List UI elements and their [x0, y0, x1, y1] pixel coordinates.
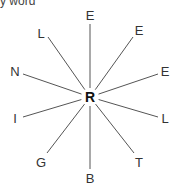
outer-letter: E: [86, 9, 95, 22]
outer-letter: E: [161, 65, 170, 78]
spoke-line: [99, 74, 158, 94]
outer-letter: B: [86, 172, 95, 185]
outer-letter: G: [36, 156, 46, 169]
outer-letter: L: [161, 112, 168, 125]
outer-letter: L: [37, 27, 44, 40]
outer-letter: N: [10, 65, 19, 78]
outer-letter: I: [13, 112, 17, 125]
spoke-line: [95, 37, 133, 90]
spoke-line: [23, 74, 81, 94]
center-letter: R: [85, 90, 95, 104]
outer-letter: T: [135, 156, 143, 169]
spoke-line: [48, 37, 85, 90]
outer-letter: E: [135, 24, 144, 37]
spoke-line: [96, 104, 134, 153]
spoke-line: [99, 100, 158, 117]
spoke-line: [47, 104, 85, 153]
spoke-line: [23, 100, 81, 117]
